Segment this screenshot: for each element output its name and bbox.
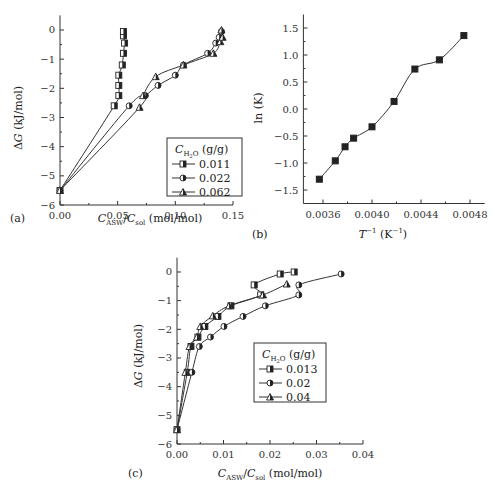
x-tick-label: 0.00: [166, 449, 188, 460]
x-tick-label: 0.0048: [453, 209, 488, 220]
marker-square: [316, 176, 322, 182]
y-tick-label: −6: [157, 439, 172, 450]
y-tick-label: −1.0: [274, 158, 298, 169]
legend-item-label: 0.022: [199, 172, 231, 185]
marker-square: [412, 66, 418, 72]
x-tick-label: 0.04: [352, 449, 374, 460]
y-tick-label: −4: [157, 381, 172, 392]
x-tick-label: 0.0036: [306, 209, 341, 220]
legend-item-label: 0.02: [286, 377, 311, 390]
panel-label-c: (c): [128, 467, 143, 480]
legend-item-label: 0.062: [199, 186, 231, 199]
chart-a: 0.000.050.100.150−1−2−3−4−5−6 (a) CASW/C…: [10, 15, 244, 227]
y-tick-label: −2: [157, 324, 172, 335]
chart-c-legend: CH2O (g/g)0.0130.020.04: [254, 343, 326, 404]
y-tick-label: 1.5: [282, 23, 298, 34]
chart-b-xlabel: T−1 (K−1): [359, 227, 407, 241]
y-tick-label: −2: [40, 83, 55, 94]
y-tick-label: −1: [157, 295, 172, 306]
series-ln(K): [316, 33, 467, 183]
y-tick-label: −0.5: [274, 131, 298, 142]
chart-a-legend: CH2O (g/g)0.0110.0220.062: [167, 138, 242, 199]
y-tick-label: −1.5: [274, 185, 298, 196]
y-tick-label: −4: [40, 141, 55, 152]
chart-c: 0.000.010.020.030.040−1−2−3−4−5−6 (c) CA…: [128, 258, 374, 482]
series-line: [60, 31, 125, 190]
chart-c-ylabel: ΔG (kJ/mol): [132, 324, 145, 388]
marker-square: [342, 144, 348, 150]
marker-square: [369, 124, 375, 130]
x-tick-label: 0.01: [212, 449, 234, 460]
chart-c-xlabel: CASW/Csol (mol/mol): [218, 467, 323, 482]
chart-a-ylabel: ΔG (kJ/mol): [12, 86, 25, 150]
y-tick-label: −5: [157, 410, 172, 421]
marker-square: [332, 158, 338, 164]
panel-label-a: (a): [10, 212, 25, 225]
y-tick-label: −6: [40, 200, 55, 211]
y-tick-label: −1: [40, 54, 55, 65]
chart-b-ylabel: ln (K): [252, 93, 265, 124]
x-tick-label: 0.0044: [404, 209, 439, 220]
marker-square: [461, 33, 467, 39]
chart-b-plot-area: 0.00360.00400.00440.00481.51.00.50.0−0.5…: [274, 15, 487, 220]
y-tick-label: 0: [166, 266, 172, 277]
y-tick-label: 0.0: [282, 104, 298, 115]
marker-square: [391, 98, 397, 104]
x-tick-label: 0.03: [305, 449, 327, 460]
series-0.011: [57, 28, 128, 193]
legend-item-label: 0.013: [286, 363, 318, 376]
y-tick-label: −3: [40, 112, 55, 123]
x-tick-label: 0.0040: [355, 209, 390, 220]
y-tick-label: 1.0: [282, 50, 298, 61]
x-tick-label: 0.02: [259, 449, 281, 460]
y-tick-label: 0.5: [282, 77, 298, 88]
y-tick-label: −5: [40, 170, 55, 181]
chart-b: 0.00360.00400.00440.00481.51.00.50.0−0.5…: [252, 15, 488, 242]
panel-label-b: (b): [252, 228, 268, 241]
x-tick-label: 0.00: [49, 210, 71, 221]
x-tick-label: 0.15: [222, 210, 244, 221]
y-tick-label: −3: [157, 352, 172, 363]
legend-item-label: 0.04: [286, 391, 311, 404]
figure: 0.000.050.100.150−1−2−3−4−5−6 (a) CASW/C…: [0, 0, 495, 497]
legend-item-label: 0.011: [199, 158, 231, 171]
y-tick-label: 0: [49, 24, 55, 35]
marker-square: [351, 135, 357, 141]
marker-square: [436, 57, 442, 63]
